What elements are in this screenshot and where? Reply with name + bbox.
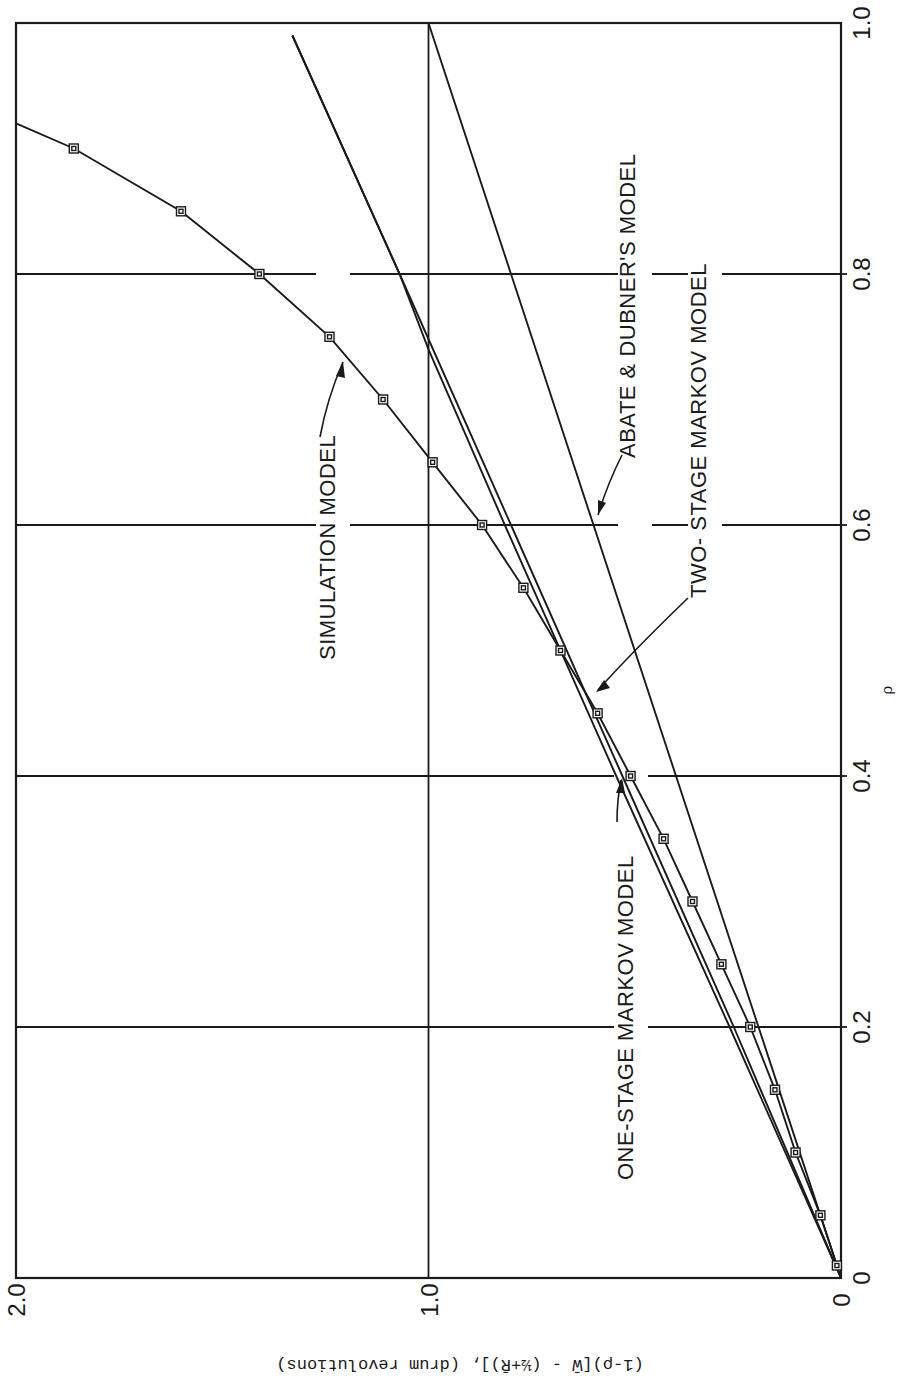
data-point-inner bbox=[818, 1213, 822, 1217]
data-point-inner bbox=[431, 460, 435, 464]
x-tick-label: 0.6 bbox=[848, 508, 875, 541]
data-point-inner bbox=[72, 147, 76, 151]
data-point-inner bbox=[381, 398, 385, 402]
label-backgrounds bbox=[316, 265, 722, 1040]
y-tick-label: 2.0 bbox=[3, 1283, 30, 1316]
simulation-markers bbox=[69, 144, 841, 1270]
chart: SIMULATION MODEL ABATE & DUBNER'S MODEL … bbox=[0, 0, 921, 1389]
data-point-inner bbox=[748, 1025, 752, 1029]
x-tick-label: 0.4 bbox=[848, 759, 875, 792]
y-tick-label: 0 bbox=[828, 1293, 855, 1306]
simulation-label: SIMULATION MODEL bbox=[315, 435, 340, 660]
data-point-inner bbox=[521, 586, 525, 590]
two-stage-label: TWO- STAGE MARKOV MODEL bbox=[686, 263, 711, 598]
abate-arrow-icon bbox=[598, 500, 606, 515]
simulation-arrow-icon bbox=[336, 362, 345, 378]
data-point-inner bbox=[559, 649, 563, 653]
data-point-inner bbox=[179, 209, 183, 213]
data-point-inner bbox=[328, 335, 332, 339]
data-point-inner bbox=[629, 774, 633, 778]
y-tick-label: 1.0 bbox=[416, 1283, 443, 1316]
gridlines bbox=[16, 23, 841, 1278]
x-tick-label: 0.8 bbox=[848, 257, 875, 290]
x-tick-label: 1.0 bbox=[848, 6, 875, 39]
x-axis-title: ρ bbox=[878, 685, 896, 694]
data-point-inner bbox=[773, 1088, 777, 1092]
x-axis-ticks: 00.20.40.60.81.0 bbox=[841, 6, 875, 1284]
data-point-inner bbox=[691, 900, 695, 904]
label-gap bbox=[316, 265, 350, 285]
x-tick-label: 0 bbox=[848, 1271, 875, 1284]
data-point-inner bbox=[794, 1151, 798, 1155]
two-stage-arrow-icon bbox=[596, 680, 610, 692]
abate-label: ABATE & DUBNER'S MODEL bbox=[615, 153, 640, 458]
data-point-inner bbox=[835, 1264, 839, 1268]
series-line-2 bbox=[292, 36, 841, 1279]
y-axis-ticks: 01.02.0 bbox=[3, 1283, 855, 1316]
y-axis-title: (1-ρ)[W̄ - (½+R̄)], (drum revolutions) bbox=[276, 1355, 643, 1374]
series-line-0 bbox=[16, 123, 837, 1265]
data-point-inner bbox=[662, 837, 666, 841]
data-point-inner bbox=[257, 272, 261, 276]
x-tick-label: 0.2 bbox=[848, 1010, 875, 1043]
data-point-inner bbox=[719, 962, 723, 966]
label-gap bbox=[618, 520, 652, 540]
data-point-inner bbox=[596, 711, 600, 715]
one-stage-label: ONE-STAGE MARKOV MODEL bbox=[613, 855, 638, 1180]
data-point-inner bbox=[480, 523, 484, 527]
